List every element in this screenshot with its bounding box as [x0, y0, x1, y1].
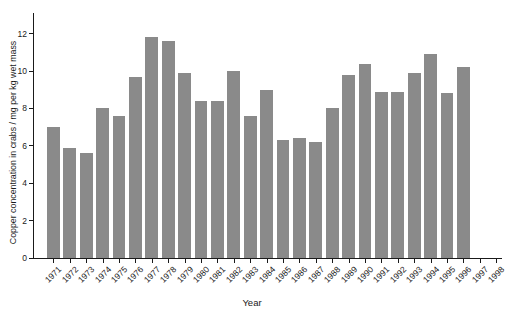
- bar-1988: [326, 108, 339, 258]
- x-tick-mark: [299, 259, 300, 263]
- x-tick-mark: [431, 259, 432, 263]
- x-tick-label: 1988: [323, 265, 343, 285]
- x-tick-mark: [463, 259, 464, 263]
- y-tick-label: 4: [11, 178, 27, 188]
- x-tick-mark: [119, 259, 120, 263]
- x-tick-mark: [365, 259, 366, 263]
- x-tick-mark: [201, 259, 202, 263]
- y-tick-label: 12: [11, 29, 27, 39]
- bar-1991: [375, 92, 388, 258]
- x-tick-mark: [53, 259, 54, 263]
- bar-1985: [277, 140, 290, 258]
- bar-1977: [145, 37, 158, 258]
- bar-1978: [162, 41, 175, 258]
- bar-1990: [359, 64, 372, 258]
- bar-1980: [195, 101, 208, 258]
- x-tick-label: 1973: [77, 265, 97, 285]
- x-tick-mark: [135, 259, 136, 263]
- bar-1996: [457, 67, 470, 258]
- y-tick-mark: [29, 258, 33, 259]
- y-axis-line: [33, 13, 34, 258]
- y-tick-label: 6: [11, 141, 27, 151]
- bar-1987: [309, 142, 322, 258]
- x-tick-mark: [168, 259, 169, 263]
- x-tick-mark: [316, 259, 317, 263]
- y-tick-mark: [29, 145, 33, 146]
- bar-1972: [63, 148, 76, 258]
- y-tick-mark: [29, 33, 33, 34]
- x-tick-mark: [103, 259, 104, 263]
- x-tick-mark: [250, 259, 251, 263]
- bar-1983: [244, 116, 257, 258]
- x-tick-label: 1998: [487, 265, 507, 285]
- x-tick-mark: [349, 259, 350, 263]
- y-tick-label: 0: [11, 253, 27, 263]
- x-tick-mark: [414, 259, 415, 263]
- bar-1974: [96, 108, 109, 258]
- bar-1993: [408, 73, 421, 258]
- x-tick-label: 1983: [241, 265, 261, 285]
- y-tick-mark: [29, 183, 33, 184]
- x-tick-mark: [283, 259, 284, 263]
- bar-1989: [342, 75, 355, 258]
- y-tick-label: 2: [11, 216, 27, 226]
- x-tick-mark: [381, 259, 382, 263]
- x-tick-mark: [480, 259, 481, 263]
- bar-1976: [129, 77, 142, 258]
- bar-1982: [227, 71, 240, 258]
- x-tick-mark: [447, 259, 448, 263]
- bar-1986: [293, 138, 306, 258]
- x-tick-mark: [267, 259, 268, 263]
- x-tick-mark: [496, 259, 497, 263]
- bar-1973: [80, 153, 93, 258]
- y-tick-mark: [29, 108, 33, 109]
- x-tick-mark: [398, 259, 399, 263]
- x-tick-mark: [332, 259, 333, 263]
- x-tick-label: 1978: [159, 265, 179, 285]
- x-tick-label: 1993: [405, 265, 425, 285]
- bar-1971: [47, 127, 60, 258]
- x-axis-title: Year: [230, 297, 274, 308]
- bar-1994: [424, 54, 437, 258]
- y-tick-mark: [29, 71, 33, 72]
- bar-1992: [391, 92, 404, 258]
- x-tick-mark: [70, 259, 71, 263]
- bar-1984: [260, 90, 273, 258]
- y-tick-label: 8: [11, 103, 27, 113]
- x-tick-mark: [152, 259, 153, 263]
- bar-1979: [178, 73, 191, 258]
- bar-chart-figure: Copper concentration in crabs / mg per k…: [0, 0, 510, 323]
- bar-1995: [441, 93, 454, 258]
- y-tick-mark: [29, 220, 33, 221]
- x-tick-mark: [86, 259, 87, 263]
- x-tick-mark: [234, 259, 235, 263]
- bar-1981: [211, 101, 224, 258]
- bar-1975: [113, 116, 126, 258]
- y-tick-label: 10: [11, 66, 27, 76]
- x-tick-mark: [217, 259, 218, 263]
- x-tick-mark: [185, 259, 186, 263]
